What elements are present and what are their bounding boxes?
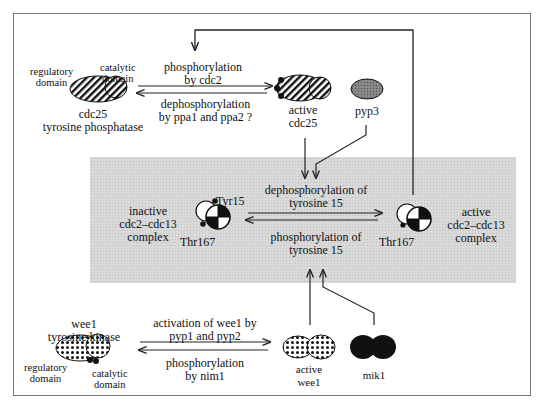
wee1-phosphorylation-label: phosphorylationby nim1 [150,357,260,383]
inactive-complex-label: inactivecdc2–cdc13complex [112,205,184,244]
active-cdc25-label: activecdc25 [278,104,328,130]
active-wee1-shape [283,335,335,359]
pyp3-shape [351,79,383,99]
pyp3-label: pyp3 [350,105,384,118]
wee1-reversible-arrows [139,342,270,350]
wee1-catalytic-domain-label: catalyticdomain [92,368,128,390]
mik1-shape [350,335,396,359]
cdc25-reversible-arrows [137,86,272,93]
cdc25-catalytic-domain-label: catalyticdomain [100,62,136,84]
mik1-to-phosphorylation-arrow [323,270,374,325]
tyr15-label: Tyr15 [216,195,245,208]
dephosphorylation-tyr15-label: dephosphorylation oftyrosine 15 [256,184,376,210]
complex-reversible-arrows [246,213,382,220]
active-cdc25-shape [274,75,331,101]
active-wee1-label: activewee1 [289,363,329,389]
cdc25-name-label: cdc25tyrosine phosphatase [38,108,148,134]
active-complex-label: activecdc2–cdc13complex [440,206,512,245]
phosphorylation-tyr15-label: phosphorylation oftyrosine 15 [256,231,376,257]
wee1-regulatory-domain-label: regulatorydomain [24,362,67,384]
cdc25-phosphorylation-label: phosphorylationby cdc2 [148,61,258,87]
mik1-label: mik1 [357,369,391,382]
thr167-left-label: Thr167 [180,236,215,249]
wee1-activation-label: activation of wee1 bypyp1 and pyp2 [145,317,265,343]
active-complex-symbol [397,204,431,231]
cdc25-dephosphorylation-label: dephosphorylationby ppa1 and ppa2 ? [148,98,263,124]
wee1-name-label: wee1tyrosine kinase [44,318,124,344]
thr167-right-label: Thr167 [379,236,414,249]
pyp3-to-dephosphorylation-arrow [316,125,366,178]
cdc25-regulatory-domain-label: regulatorydomain [30,66,73,88]
